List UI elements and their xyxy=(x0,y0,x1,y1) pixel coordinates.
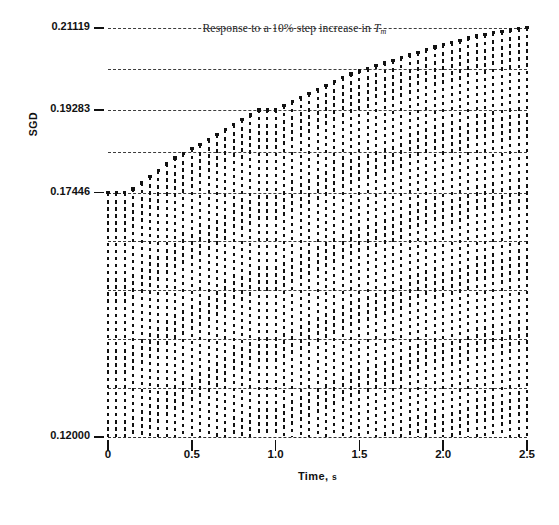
data-column xyxy=(283,106,285,437)
data-point-marker xyxy=(207,138,210,141)
data-column xyxy=(275,110,277,437)
data-column xyxy=(124,193,126,437)
data-point-marker xyxy=(374,64,377,67)
data-point-marker xyxy=(349,72,352,75)
data-point-marker xyxy=(266,108,269,111)
data-column xyxy=(375,66,377,437)
data-point-marker xyxy=(224,128,227,131)
data-column xyxy=(467,38,469,437)
data-column xyxy=(300,98,302,437)
data-column xyxy=(459,41,461,437)
data-point-marker xyxy=(140,181,143,184)
data-column xyxy=(317,90,319,437)
data-point-marker xyxy=(173,156,176,159)
x-tick-label: 1.0 xyxy=(246,448,306,460)
data-point-marker xyxy=(442,43,445,46)
y-tick-label: 0.21119 xyxy=(0,20,90,32)
gridline xyxy=(108,28,527,29)
data-point-marker xyxy=(157,169,160,172)
data-column xyxy=(258,110,260,437)
plot-area xyxy=(108,28,527,437)
data-column xyxy=(141,183,143,437)
data-point-marker xyxy=(467,36,470,39)
data-column xyxy=(392,61,394,437)
data-point-marker xyxy=(517,27,520,30)
data-column xyxy=(425,50,427,437)
y-tick-mark xyxy=(94,109,104,111)
data-column xyxy=(216,135,218,437)
data-column xyxy=(484,35,486,437)
data-column xyxy=(199,145,201,437)
data-point-marker xyxy=(425,48,428,51)
data-point-marker xyxy=(307,92,310,95)
y-tick-label: 0.17446 xyxy=(0,185,90,197)
data-column xyxy=(308,94,310,437)
data-column xyxy=(501,32,503,437)
x-axis-line xyxy=(108,437,527,438)
data-column xyxy=(115,193,117,437)
data-point-marker xyxy=(324,84,327,87)
data-point-marker xyxy=(232,123,235,126)
data-column xyxy=(518,29,520,437)
x-tick-label: 1.5 xyxy=(329,448,389,460)
data-column xyxy=(233,125,235,437)
data-column xyxy=(367,69,369,437)
data-column xyxy=(241,120,243,437)
data-point-marker xyxy=(525,26,528,29)
data-point-marker xyxy=(358,69,361,72)
data-column xyxy=(492,33,494,437)
data-column xyxy=(266,110,268,437)
y-tick-label: 0.12000 xyxy=(0,429,90,441)
y-axis-title: SGD xyxy=(27,89,39,159)
x-axis-title-text: Time, xyxy=(298,470,329,482)
x-tick-label: 0.5 xyxy=(162,448,222,460)
data-point-marker xyxy=(106,191,109,194)
data-column xyxy=(451,43,453,437)
data-point-marker xyxy=(190,147,193,150)
data-point-marker xyxy=(123,191,126,194)
data-point-marker xyxy=(483,33,486,36)
data-point-marker xyxy=(509,28,512,31)
data-column xyxy=(291,102,293,437)
data-column xyxy=(174,158,176,437)
data-column xyxy=(526,28,528,437)
y-tick-mark xyxy=(94,27,104,29)
data-point-marker xyxy=(400,56,403,59)
data-point-marker xyxy=(299,96,302,99)
data-point-marker xyxy=(198,143,201,146)
data-point-marker xyxy=(148,175,151,178)
data-column xyxy=(384,63,386,437)
data-point-marker xyxy=(341,76,344,79)
data-point-marker xyxy=(165,162,168,165)
data-column xyxy=(358,71,360,437)
data-column xyxy=(350,74,352,437)
x-tick-label: 2.0 xyxy=(413,448,473,460)
data-point-marker xyxy=(240,118,243,121)
y-tick-label: 0.19283 xyxy=(0,102,90,114)
data-column xyxy=(509,30,511,437)
data-point-marker xyxy=(492,31,495,34)
y-tick-mark xyxy=(94,192,104,194)
data-column xyxy=(434,47,436,437)
data-column xyxy=(476,36,478,437)
data-column xyxy=(417,53,419,437)
x-axis-unit: s xyxy=(332,472,337,482)
data-point-marker xyxy=(383,61,386,64)
data-column xyxy=(249,115,251,437)
data-point-marker xyxy=(249,113,252,116)
data-column xyxy=(342,78,344,437)
data-column xyxy=(224,130,226,437)
data-point-marker xyxy=(274,108,277,111)
data-column xyxy=(442,45,444,437)
data-point-marker xyxy=(433,45,436,48)
data-column xyxy=(208,140,210,437)
chart-figure: Response to a 10% step increase in Tm SG… xyxy=(0,0,559,525)
data-column xyxy=(400,58,402,437)
data-column xyxy=(191,149,193,437)
data-point-marker xyxy=(333,80,336,83)
data-point-marker xyxy=(282,104,285,107)
data-point-marker xyxy=(316,88,319,91)
data-column xyxy=(166,164,168,437)
data-point-marker xyxy=(131,187,134,190)
data-point-marker xyxy=(182,152,185,155)
